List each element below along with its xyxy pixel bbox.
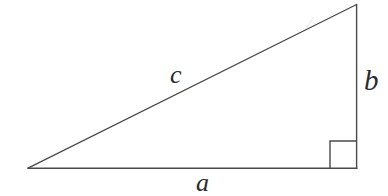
- right-angle-marker-icon: [330, 141, 357, 168]
- horizontal-leg-label: a: [196, 170, 209, 196]
- hypotenuse-speck-mark: [307, 18, 313, 27]
- vertical-leg-label: b: [364, 66, 379, 95]
- right-triangle-figure: c b a: [0, 0, 388, 196]
- hypotenuse-label: c: [170, 62, 182, 88]
- triangle-hypotenuse-edge: [28, 5, 357, 169]
- triangle-drawing: [0, 0, 388, 196]
